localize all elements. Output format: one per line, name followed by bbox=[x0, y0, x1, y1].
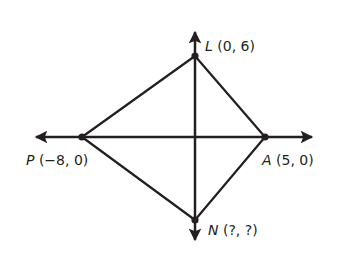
segment-AN bbox=[195, 137, 265, 220]
label-N-coords: (?, ?) bbox=[223, 222, 258, 238]
segment-PN bbox=[82, 137, 195, 220]
point-A bbox=[261, 133, 268, 140]
segment-LP bbox=[82, 56, 195, 137]
label-A-name: A bbox=[262, 152, 272, 168]
label-L-name: L bbox=[205, 38, 213, 54]
label-L: L (0, 6) bbox=[205, 38, 255, 54]
label-L-coords: (0, 6) bbox=[217, 38, 255, 54]
label-A: A (5, 0) bbox=[262, 152, 314, 168]
label-P-name: P bbox=[26, 152, 34, 168]
segment-LA bbox=[195, 56, 265, 137]
label-P-coords: (−8, 0) bbox=[39, 152, 88, 168]
label-N-name: N bbox=[208, 222, 218, 238]
point-P bbox=[78, 133, 85, 140]
label-P: P (−8, 0) bbox=[26, 152, 88, 168]
coordinate-diagram bbox=[0, 0, 345, 262]
point-N bbox=[191, 216, 198, 223]
label-N: N (?, ?) bbox=[208, 222, 258, 238]
label-A-coords: (5, 0) bbox=[276, 152, 314, 168]
point-L bbox=[191, 52, 198, 59]
